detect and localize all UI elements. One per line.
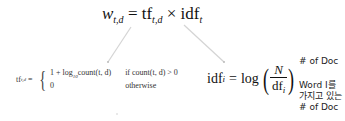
df-subscript: i — [283, 85, 286, 95]
idf-subscript: t — [199, 14, 202, 25]
tf-case2-condition: otherwise — [125, 81, 178, 90]
idf-lhs-subscript: i — [223, 74, 226, 84]
idf-equals: = — [229, 71, 237, 87]
df-symbol: df — [272, 78, 283, 93]
tf-case1-expr: 1 + log10count(t, d) — [50, 68, 111, 79]
idf-fraction: N dfi — [270, 63, 287, 95]
tf-formula: tft,d = { 1 + log10count(t, d) if count(… — [16, 67, 178, 91]
connector-to-idf — [184, 25, 224, 62]
tf-lhs-subscript: t,d — [21, 77, 26, 82]
connector-dot-tf — [107, 61, 109, 63]
denominator-annotation: Word I를 가지고 있는 # of Doc — [299, 80, 342, 113]
tf-subscript: t,d — [152, 14, 162, 25]
denominator-note-line3: # of Doc — [299, 102, 342, 113]
stray-dot — [116, 113, 118, 115]
connector-to-tf — [108, 27, 131, 62]
tf-case1-condition: if count(t, d) > 0 — [125, 68, 178, 79]
tf-symbol: tf — [142, 4, 152, 23]
left-paren-icon: ( — [263, 64, 269, 94]
log-function: log — [241, 71, 259, 87]
times-sign: × — [167, 4, 177, 23]
fraction-denominator: dfi — [270, 77, 287, 95]
equals-sign: = — [128, 4, 138, 23]
denominator-note-line2: 가지고 있는 — [299, 91, 342, 102]
idf-formula: idfi = log ( N dfi ) — [207, 63, 294, 95]
idf-lhs: idf — [207, 71, 223, 87]
weight-subscript: t,d — [113, 14, 123, 25]
case1-prefix: 1 + log — [50, 68, 73, 77]
case1-count: count(t, d) — [78, 68, 111, 77]
tf-cases: 1 + log10count(t, d) if count(t, d) > 0 … — [50, 68, 178, 90]
left-brace-icon: { — [39, 67, 46, 91]
fraction-numerator: N — [272, 63, 285, 77]
tfidf-main-formula: wt,d = tft,d × idft — [102, 4, 202, 25]
tf-case2-expr: 0 — [50, 81, 111, 90]
numerator-annotation: # of Doc — [299, 56, 338, 67]
denominator-note-line1: Word I를 — [299, 80, 342, 91]
tf-equals: = — [28, 75, 33, 84]
idf-symbol: idf — [180, 4, 199, 23]
right-paren-icon: ) — [288, 64, 294, 94]
weight-symbol: w — [102, 4, 113, 23]
